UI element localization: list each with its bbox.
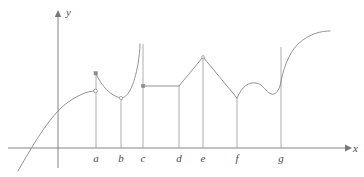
closed-point-a-value <box>94 72 97 75</box>
curve-segment-e-to-f-fall <box>203 57 237 98</box>
tick-label-g: g <box>274 152 288 164</box>
graph-canvas <box>0 0 364 177</box>
open-point-b-cusp <box>119 96 122 99</box>
axes-group <box>8 10 352 168</box>
curve-segment-f-to-g-wave <box>237 83 280 98</box>
tick-label-a: a <box>89 152 103 164</box>
open-point-e-peak <box>202 56 205 59</box>
curve-segment-a-to-b <box>96 74 121 98</box>
tick-lines-group <box>96 44 281 148</box>
tick-label-e: e <box>196 152 210 164</box>
curve-segment-left-increasing <box>18 91 95 171</box>
x-axis-label: x <box>353 142 358 154</box>
tick-label-f: f <box>230 152 244 164</box>
curve-segment-d-to-e-rise <box>179 57 203 86</box>
closed-point-c-right-value <box>141 84 144 87</box>
x-axis-arrowhead <box>345 145 352 152</box>
curve-segment-g-steep-rise <box>280 31 330 86</box>
curve-segment-b-to-c-asymptote <box>121 44 140 98</box>
open-point-a-left-limit <box>94 89 98 93</box>
function-graph-figure: a b c d e f g x y <box>0 0 364 177</box>
tick-label-b: b <box>114 152 128 164</box>
y-axis-arrowhead <box>55 10 61 17</box>
tick-label-c: c <box>136 152 150 164</box>
tick-label-d: d <box>172 152 186 164</box>
function-curve-group <box>18 31 330 171</box>
y-axis-label: y <box>66 6 71 18</box>
